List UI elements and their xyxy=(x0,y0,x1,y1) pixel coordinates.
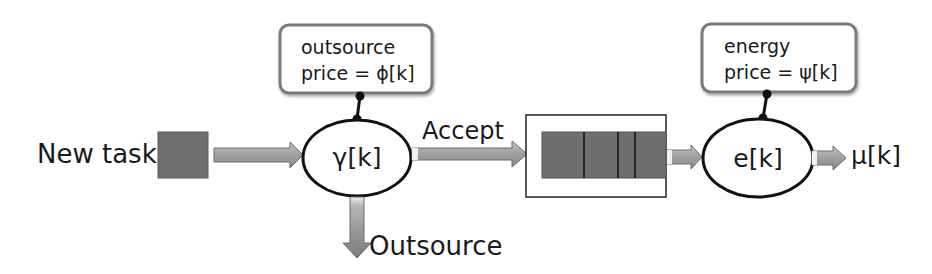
outsource-arrow xyxy=(343,197,371,258)
new-task-label: New task xyxy=(37,141,157,167)
server-node-label: e[k] xyxy=(703,146,813,171)
arrow-queue-to-server xyxy=(667,145,702,169)
output-arrow xyxy=(812,146,846,170)
admission-node-label: γ[k] xyxy=(303,145,411,170)
outsource-price-line2: price = ϕ[k] xyxy=(301,60,415,86)
energy-price-line1: energy xyxy=(724,33,790,59)
output-rate-label: μ[k] xyxy=(851,143,901,168)
outsource-price-line1: outsource xyxy=(301,34,395,60)
outsource-label: Outsource xyxy=(369,233,502,259)
queue-buffer xyxy=(542,132,666,178)
new-task-block xyxy=(158,132,208,178)
energy-price-line2: price = ψ[k] xyxy=(724,59,838,85)
accept-label: Accept xyxy=(422,119,504,143)
arrow-task-to-admission xyxy=(214,142,303,168)
